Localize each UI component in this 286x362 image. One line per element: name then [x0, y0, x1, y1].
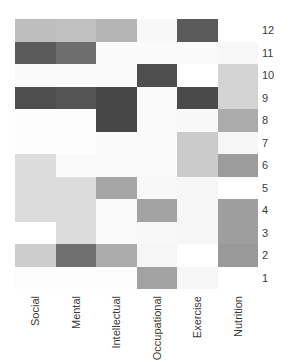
y-tick-label: 2: [262, 244, 284, 267]
heatmap-chart: 121110987654321 SocialMentalIntellectual…: [0, 0, 286, 362]
x-tick-label-wrapper: Nutrition: [218, 296, 259, 360]
heatmap-cell: [137, 109, 178, 132]
heatmap-cell: [218, 177, 259, 200]
heatmap-cell: [137, 19, 178, 42]
heatmap-cell: [15, 154, 56, 177]
y-tick-label: 4: [262, 199, 284, 222]
x-tick-label: Intellectual: [110, 296, 122, 349]
x-tick-label: Mental: [70, 296, 82, 329]
heatmap-cell: [177, 64, 218, 87]
heatmap-cell: [96, 42, 137, 65]
heatmap-cell: [218, 64, 259, 87]
heatmap-cell: [177, 19, 218, 42]
heatmap-cell: [96, 109, 137, 132]
heatmap-cell: [177, 154, 218, 177]
heatmap-cell: [177, 267, 218, 290]
y-tick-label: 5: [262, 177, 284, 200]
heatmap-cell: [96, 267, 137, 290]
heatmap-cell: [56, 222, 97, 245]
heatmap-cell: [56, 19, 97, 42]
x-tick-label-wrapper: Mental: [56, 296, 97, 360]
heatmap-cell: [177, 177, 218, 200]
heatmap-cell: [56, 132, 97, 155]
heatmap-cell: [56, 87, 97, 110]
heatmap-cell: [218, 154, 259, 177]
y-tick-label: 11: [262, 42, 284, 65]
x-tick-label-wrapper: Exercise: [177, 296, 218, 360]
heatmap-cell: [137, 177, 178, 200]
heatmap-cell: [56, 199, 97, 222]
heatmap-cell: [96, 199, 137, 222]
heatmap-cell: [218, 244, 259, 267]
heatmap-cell: [96, 177, 137, 200]
heatmap-cell: [96, 87, 137, 110]
heatmap-cell: [218, 87, 259, 110]
heatmap-cell: [137, 244, 178, 267]
heatmap-cell: [15, 42, 56, 65]
heatmap-cell: [177, 42, 218, 65]
heatmap-cell: [56, 42, 97, 65]
heatmap-cell: [177, 222, 218, 245]
heatmap-cell: [137, 132, 178, 155]
y-tick-label: 9: [262, 87, 284, 110]
x-tick-label-wrapper: Occupational: [137, 296, 178, 360]
heatmap-cell: [177, 87, 218, 110]
heatmap-cell: [15, 132, 56, 155]
heatmap-cell: [218, 132, 259, 155]
heatmap-cell: [15, 222, 56, 245]
heatmap-cell: [96, 222, 137, 245]
heatmap-cell: [56, 177, 97, 200]
heatmap-cell: [15, 87, 56, 110]
heatmap-cell: [177, 109, 218, 132]
heatmap-cell: [218, 222, 259, 245]
heatmap-cell: [56, 244, 97, 267]
y-tick-label: 7: [262, 132, 284, 155]
heatmap-cell: [137, 199, 178, 222]
heatmap-cell: [137, 267, 178, 290]
heatmap-cell: [15, 109, 56, 132]
heatmap-cell: [96, 154, 137, 177]
x-tick-label: Exercise: [191, 296, 203, 338]
heatmap-cell: [218, 199, 259, 222]
y-tick-label: 1: [262, 267, 284, 290]
heatmap-cell: [177, 199, 218, 222]
heatmap-cell: [56, 267, 97, 290]
heatmap-cell: [137, 42, 178, 65]
heatmap-cell: [137, 222, 178, 245]
heatmap-cell: [15, 19, 56, 42]
heatmap-cell: [15, 199, 56, 222]
y-tick-label: 12: [262, 19, 284, 42]
heatmap-cell: [15, 177, 56, 200]
x-tick-label-wrapper: Intellectual: [96, 296, 137, 360]
heatmap-cell: [15, 244, 56, 267]
heatmap-cell: [218, 109, 259, 132]
heatmap-cell: [15, 64, 56, 87]
heatmap-cell: [177, 244, 218, 267]
heatmap-cell: [96, 64, 137, 87]
heatmap-cell: [56, 154, 97, 177]
x-tick-label: Social: [29, 296, 41, 326]
heatmap-cell: [15, 267, 56, 290]
heatmap-cell: [56, 64, 97, 87]
heatmap-cell: [177, 132, 218, 155]
heatmap-cell: [56, 109, 97, 132]
y-tick-label: 3: [262, 222, 284, 245]
heatmap-cell: [96, 132, 137, 155]
x-tick-label-wrapper: Social: [15, 296, 56, 360]
heatmap-cell: [218, 267, 259, 290]
x-tick-label: Nutrition: [232, 296, 244, 337]
y-tick-label: 8: [262, 109, 284, 132]
y-tick-label: 10: [262, 64, 284, 87]
heatmap-cell: [137, 154, 178, 177]
x-tick-label: Occupational: [151, 296, 163, 360]
y-tick-label: 6: [262, 154, 284, 177]
heatmap-cell: [96, 19, 137, 42]
heatmap-cell: [137, 87, 178, 110]
heatmap-cell: [218, 19, 259, 42]
heatmap-cell: [96, 244, 137, 267]
heatmap-cell: [137, 64, 178, 87]
heatmap-grid: [15, 19, 258, 289]
heatmap-cell: [218, 42, 259, 65]
